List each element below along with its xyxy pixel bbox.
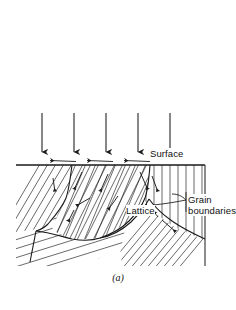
slip-arrow-2: [87, 161, 113, 162]
slip-arrow-3: [124, 161, 150, 162]
internal-arrow-4: [100, 174, 108, 192]
figure-container: Surface Lattice Grain boundaries (a): [0, 0, 236, 310]
surface-slip-arrows: [50, 161, 150, 162]
figure-caption: (a): [0, 272, 236, 283]
label-leader-lines: [151, 192, 186, 217]
label-lattice: Lattice: [126, 205, 155, 216]
boundary-left-stub: [30, 231, 36, 262]
grain-boundaries-paths: [30, 165, 205, 262]
leader-grain-boundaries-2: [172, 194, 186, 200]
label-grain-line1: Grain: [188, 194, 212, 205]
slip-arrow-1: [50, 161, 76, 162]
grain-structure-diagram: [0, 0, 236, 310]
leader-grain-boundaries: [153, 200, 186, 205]
label-grain-line2: boundaries: [188, 205, 236, 216]
label-surface: Surface: [150, 148, 183, 159]
boundary-lower-left: [36, 231, 100, 240]
hatch-lower-left-grain: [0, 180, 150, 308]
label-grain-boundaries: Grain boundaries: [188, 194, 236, 216]
internal-arrow-8: [152, 176, 158, 192]
applied-load-arrows: [42, 113, 170, 152]
